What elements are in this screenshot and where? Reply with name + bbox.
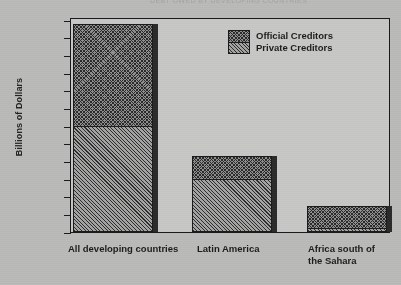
y-axis-tick xyxy=(64,74,71,75)
bar-1 xyxy=(73,24,153,232)
legend-label-official-creditors: Official Creditors xyxy=(256,30,333,42)
y-axis-tick xyxy=(64,21,71,22)
y-axis-tick xyxy=(64,180,71,181)
bar-3 xyxy=(307,206,387,233)
y-axis-tick xyxy=(64,197,71,198)
y-axis-tick xyxy=(64,109,71,110)
legend-swatch-private-creditors xyxy=(229,43,249,54)
chart-title-clipped: DEBT OWED BY DEVELOPING COUNTRIES xyxy=(150,0,395,4)
legend-labels: Official Creditors Private Creditors xyxy=(256,30,333,54)
bar-segment-private-creditors xyxy=(73,126,153,232)
y-axis-tick xyxy=(64,215,71,216)
y-axis-tick xyxy=(64,56,71,57)
chart-legend: Official Creditors Private Creditors xyxy=(228,30,333,54)
bar-segment-official-creditors xyxy=(192,156,272,180)
bar-2 xyxy=(192,156,272,232)
x-axis-category-label-1: All developing countries xyxy=(68,243,198,255)
legend-label-private-creditors: Private Creditors xyxy=(256,42,333,54)
y-axis-tick xyxy=(64,233,71,234)
y-axis-tick xyxy=(64,162,71,163)
y-axis-tick xyxy=(64,38,71,39)
legend-swatch-official-creditors xyxy=(229,31,249,43)
y-axis-label: Billions of Dollars xyxy=(14,42,24,192)
legend-swatch-group xyxy=(228,30,250,54)
x-axis-category-label-3: Africa south of the Sahara xyxy=(308,243,388,266)
bar-segment-official-creditors xyxy=(307,206,387,229)
y-axis-tick xyxy=(64,144,71,145)
bar-segment-official-creditors xyxy=(73,24,153,128)
y-axis-tick xyxy=(64,127,71,128)
y-axis-tick xyxy=(64,91,71,92)
bar-segment-private-creditors xyxy=(192,179,272,232)
